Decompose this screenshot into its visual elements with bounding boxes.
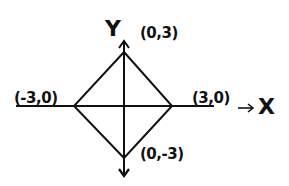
vertex-label-left: (-3,0) xyxy=(14,91,58,106)
vertex-label-right: (3,0) xyxy=(192,91,230,106)
vertex-label-bottom: (0,-3) xyxy=(140,147,184,162)
y-axis-label: Y xyxy=(105,18,121,40)
x-axis-label: X xyxy=(258,96,275,118)
vertex-label-top: (0,3) xyxy=(140,26,178,41)
